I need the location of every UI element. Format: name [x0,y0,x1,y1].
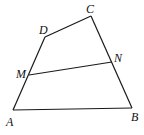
segment-cd [45,16,91,37]
label-m: M [15,67,27,81]
label-c: C [86,2,95,16]
quadrilateral-diagram: A B C D M N [0,0,144,135]
label-d: D [38,23,48,37]
label-n: N [113,51,123,65]
segment-mn [29,62,112,75]
segment-ab [13,108,132,110]
label-b: B [131,110,139,124]
label-a: A [5,115,14,129]
